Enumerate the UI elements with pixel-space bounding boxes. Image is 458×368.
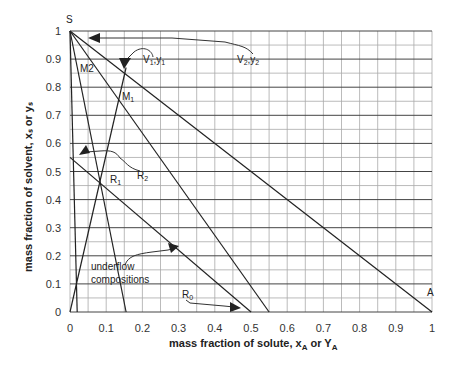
y-tick-label: 1 [55,25,61,37]
label-a: A [427,287,434,298]
y-tick-label: 0.2 [46,250,61,262]
y-tick-label: 0.6 [46,137,61,149]
x-tick-label: 0.9 [388,322,403,334]
label-m1: M1 [122,91,134,103]
x-tick-label: 0.6 [280,322,295,334]
label-v1: V1,y1 [143,54,165,66]
x-axis-title: mass fraction of solute, xA or YA [169,337,338,352]
y-tick-label: 0.5 [46,166,61,178]
x-tick-label: 1 [429,322,435,334]
label-s: S [66,14,73,25]
r0-arrow [186,300,234,307]
v2-arrow-head [88,33,100,43]
x-tick-label: 0.2 [135,322,150,334]
label-r1: R1 [110,174,121,186]
y-axis-title: mass fraction of solvent, xₛ or yₛ [22,102,34,272]
label-r0: R0 [182,289,193,301]
y-tick-label: 0.1 [46,278,61,290]
y-tick-label: 0.9 [46,53,61,65]
x-tick-label: 0.5 [243,322,258,334]
axis-ticks: 00.10.20.30.40.50.60.70.80.9100.10.20.30… [46,25,435,334]
y-tick-label: 0.8 [46,81,61,93]
x-tick-label: 0 [67,322,73,334]
v1-arrow-head [119,58,131,69]
x-tick-label: 0.8 [352,322,367,334]
underflow-arrow-head [168,243,179,253]
y-tick-label: 0.3 [46,222,61,234]
ternary-extraction-chart: 00.10.20.30.40.50.60.70.80.9100.10.20.30… [0,0,458,368]
label-underflow-2: compositions [91,274,149,285]
x-tick-label: 0.7 [316,322,331,334]
y-tick-label: 0 [55,306,61,318]
x-tick-label: 0.3 [171,322,186,334]
r0-arrow-head [230,302,241,312]
x-tick-label: 0.4 [207,322,222,334]
y-tick-label: 0.4 [46,194,61,206]
y-tick-label: 0.7 [46,109,61,121]
label-v2: V2,y2 [237,54,259,66]
v2-arrow [92,38,253,54]
label-m2: M2 [80,63,94,74]
x-tick-label: 0.1 [99,322,114,334]
label-underflow-1: underflow [91,261,135,272]
